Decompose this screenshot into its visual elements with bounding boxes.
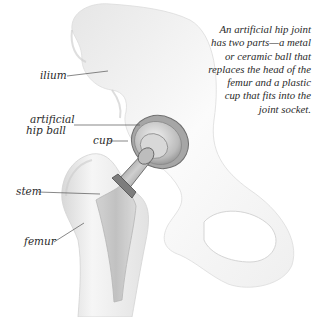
hip-implant-diagram: ilium artificial hip ball cup stem femur…: [0, 0, 317, 317]
caption-line: joint socket.: [193, 103, 311, 116]
label-cup: cup: [93, 135, 112, 146]
caption-line: or ceramic ball that: [193, 50, 311, 63]
caption-line: replaces the head of the: [193, 63, 311, 76]
caption: An artificial hip joint has two parts—a …: [193, 23, 311, 116]
label-stem: stem: [16, 186, 42, 197]
caption-line: cup that fits into the: [193, 89, 311, 102]
label-femur: femur: [24, 236, 56, 247]
label-artificial-hip-ball-line2: hip ball: [26, 125, 66, 136]
caption-line: femur and a plastic: [193, 76, 311, 89]
label-ilium: ilium: [40, 70, 67, 81]
caption-line: An artificial hip joint: [193, 23, 311, 36]
caption-line: has two parts—a metal: [193, 36, 311, 49]
